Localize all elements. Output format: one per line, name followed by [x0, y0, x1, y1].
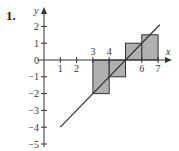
y-axis-label: y: [33, 5, 39, 16]
y-tick-label: −2: [28, 88, 39, 99]
y-tick-label: 0: [34, 55, 39, 66]
x-axis-arrow-icon: [165, 57, 172, 63]
x-tick-label: 3: [90, 46, 95, 57]
chart: xy123467210−1−2−3−4−5: [0, 0, 179, 151]
y-tick-label: −1: [28, 71, 39, 82]
y-tick-label: −5: [28, 139, 39, 150]
y-tick-label: −4: [28, 122, 39, 133]
y-axis-arrow-icon: [41, 7, 47, 14]
x-tick-label: 1: [58, 63, 63, 74]
x-tick-label: 6: [139, 63, 144, 74]
x-tick-label: 7: [156, 63, 161, 74]
x-axis-label: x: [165, 46, 171, 57]
riemann-rectangle: [142, 35, 158, 60]
x-tick-label: 4: [107, 46, 112, 57]
y-tick-label: −3: [28, 105, 39, 116]
y-tick-label: 1: [34, 38, 39, 49]
function-line: [60, 25, 159, 127]
y-tick-label: 2: [34, 21, 39, 32]
x-tick-label: 2: [74, 63, 79, 74]
riemann-rectangle: [93, 60, 109, 94]
